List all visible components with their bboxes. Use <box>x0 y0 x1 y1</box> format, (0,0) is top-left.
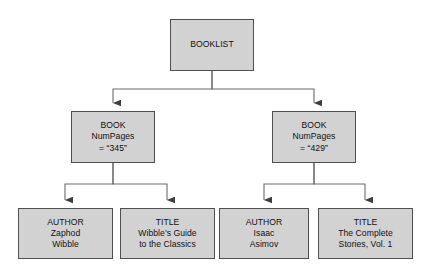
edge-booklist-book-1 <box>113 71 212 103</box>
edge-book-1-author-1 <box>65 163 113 200</box>
node-book-1-line-1: BOOK <box>100 120 125 131</box>
node-booklist-line-1: BOOKLIST <box>190 39 233 50</box>
node-author-2-line-2: Isaac <box>254 228 275 239</box>
tree-diagram: BOOKLIST BOOK NumPages = “345” BOOK NumP… <box>0 0 424 272</box>
node-book-2-line-3: = “429” <box>300 143 328 154</box>
node-book-2-line-1: BOOK <box>301 120 326 131</box>
node-title-1-line-2: Wibble’s Guide <box>138 228 196 239</box>
node-author-2-line-3: Asimov <box>250 239 278 250</box>
node-title-2[interactable]: TITLE The Complete Stories, Vol. 1 <box>318 208 413 259</box>
node-book-1-line-2: NumPages <box>92 131 135 142</box>
node-author-1-line-3: Wibble <box>52 239 79 250</box>
node-book-2-line-2: NumPages <box>293 131 336 142</box>
node-title-2-line-1: TITLE <box>354 217 378 228</box>
node-title-1-line-3: to the Classics <box>139 239 196 250</box>
node-author-1[interactable]: AUTHOR Zaphod Wibble <box>18 208 113 259</box>
node-author-1-line-2: Zaphod <box>51 228 80 239</box>
edge-book-2-title-2 <box>314 163 365 200</box>
edge-booklist-book-2 <box>212 71 314 103</box>
node-book-1-line-3: = “345” <box>99 143 127 154</box>
edge-book-2-author-2 <box>264 163 314 200</box>
node-title-2-line-3: Stories, Vol. 1 <box>339 239 393 250</box>
node-book-2[interactable]: BOOK NumPages = “429” <box>272 111 356 163</box>
node-title-1[interactable]: TITLE Wibble’s Guide to the Classics <box>120 208 215 259</box>
node-author-1-line-1: AUTHOR <box>47 217 84 228</box>
node-author-2[interactable]: AUTHOR Isaac Asimov <box>219 208 309 259</box>
node-booklist[interactable]: BOOKLIST <box>170 19 254 71</box>
node-title-2-line-2: The Complete <box>338 228 393 239</box>
node-author-2-line-1: AUTHOR <box>246 217 283 228</box>
node-book-1[interactable]: BOOK NumPages = “345” <box>71 111 155 163</box>
edge-book-1-title-1 <box>113 163 167 200</box>
node-title-1-line-1: TITLE <box>156 217 180 228</box>
